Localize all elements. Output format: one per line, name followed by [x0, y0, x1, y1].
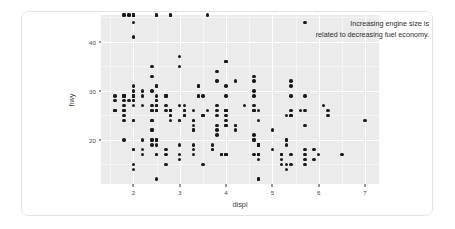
data-point: [271, 128, 274, 131]
data-point: [252, 104, 255, 107]
data-point: [257, 153, 260, 156]
x-tick-mark: [133, 184, 134, 187]
x-tick-mark: [272, 184, 273, 187]
data-point: [234, 128, 237, 131]
data-point: [201, 114, 204, 117]
data-point: [192, 148, 195, 151]
data-point: [150, 75, 153, 78]
data-point: [127, 13, 130, 16]
data-point: [285, 168, 288, 171]
data-point: [280, 163, 283, 166]
data-point: [252, 94, 255, 97]
data-point: [169, 109, 172, 112]
data-point: [252, 153, 255, 156]
data-point: [289, 109, 292, 112]
data-point: [215, 70, 218, 73]
data-point: [220, 153, 223, 156]
data-point: [150, 143, 153, 146]
data-point: [224, 153, 227, 156]
data-point: [197, 94, 200, 97]
data-point: [155, 94, 158, 97]
data-point: [224, 119, 227, 122]
data-point: [122, 104, 125, 107]
data-point: [155, 84, 158, 87]
data-point: [141, 104, 144, 107]
data-point: [155, 138, 158, 141]
gridline-minor-x: [110, 15, 111, 184]
gridline-major-x: [272, 15, 273, 184]
data-point: [155, 177, 158, 180]
data-point: [224, 60, 227, 63]
data-point: [132, 163, 135, 166]
data-point: [289, 84, 292, 87]
data-point: [132, 21, 135, 24]
data-point: [340, 153, 343, 156]
data-point: [169, 119, 172, 122]
data-point: [285, 163, 288, 166]
data-point: [183, 109, 186, 112]
data-point: [211, 143, 214, 146]
data-point: [164, 153, 167, 156]
x-axis-title: displ: [101, 200, 379, 209]
data-point: [303, 158, 306, 161]
data-point: [285, 114, 288, 117]
data-point: [252, 75, 255, 78]
gridline-minor-y: [101, 66, 379, 67]
data-point: [285, 138, 288, 141]
data-point: [164, 94, 167, 97]
y-tick-mark: [99, 90, 102, 91]
data-point: [141, 89, 144, 92]
data-point: [150, 89, 153, 92]
data-point: [122, 99, 125, 102]
x-tick-mark: [226, 184, 227, 187]
data-point: [303, 94, 306, 97]
data-point: [215, 128, 218, 131]
data-point: [141, 138, 144, 141]
data-point: [132, 35, 135, 38]
x-tick-label: 4: [224, 189, 227, 196]
data-point: [252, 89, 255, 92]
data-point: [178, 143, 181, 146]
data-point: [192, 124, 195, 127]
data-point: [215, 109, 218, 112]
chart-card: Increasing engine size is related to dec…: [21, 11, 433, 216]
data-point: [178, 153, 181, 156]
data-point: [141, 148, 144, 151]
data-point: [132, 99, 135, 102]
gridline-minor-x: [203, 15, 204, 184]
x-tick-label: 3: [178, 189, 181, 196]
data-point: [224, 114, 227, 117]
gridline-minor-x: [296, 15, 297, 184]
data-point: [192, 153, 195, 156]
data-point: [132, 104, 135, 107]
gridline-major-x: [319, 15, 320, 184]
data-point: [303, 148, 306, 151]
x-tick-mark: [365, 184, 366, 187]
data-point: [303, 109, 306, 112]
y-tick-mark: [99, 139, 102, 140]
data-point: [132, 89, 135, 92]
data-point: [122, 13, 125, 16]
data-point: [243, 104, 246, 107]
data-point: [285, 143, 288, 146]
screenshot-root: Increasing engine size is related to dec…: [0, 0, 455, 229]
data-point: [113, 109, 116, 112]
data-point: [363, 119, 366, 122]
data-point: [132, 148, 135, 151]
data-point: [289, 79, 292, 82]
data-point: [127, 99, 130, 102]
gridline-minor-y: [101, 115, 379, 116]
gridline-minor-y: [101, 164, 379, 165]
data-point: [280, 153, 283, 156]
data-point: [303, 163, 306, 166]
data-point: [326, 114, 329, 117]
data-point: [224, 84, 227, 87]
data-point: [224, 109, 227, 112]
y-axis-title: hwy: [67, 93, 76, 106]
data-point: [289, 94, 292, 97]
data-point: [303, 21, 306, 24]
data-point: [257, 177, 260, 180]
data-point: [164, 104, 167, 107]
x-tick-label: 2: [132, 189, 135, 196]
data-point: [192, 143, 195, 146]
